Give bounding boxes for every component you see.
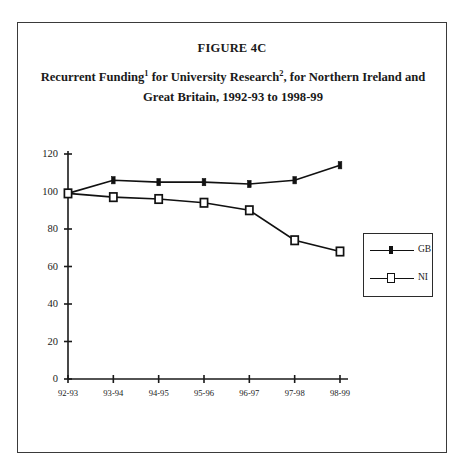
data-series (64, 162, 343, 256)
legend-label-gb: GB (418, 244, 431, 254)
x-tick-label: 92-93 (46, 388, 90, 398)
legend-label-ni: NI (418, 272, 428, 282)
page-border: FIGURE 4C Recurrent Funding1 for Univers… (17, 22, 447, 453)
y-tick-label: 60 (28, 262, 58, 272)
data-point-gb (338, 162, 342, 169)
data-point-gb (293, 177, 297, 184)
data-point-ni (246, 206, 253, 214)
x-tick-label: 95-96 (182, 388, 226, 398)
data-point-ni (155, 195, 162, 203)
data-point-ni (110, 193, 117, 201)
figure-page: FIGURE 4C Recurrent Funding1 for Univers… (0, 0, 466, 472)
chart-legend: GB NI (363, 233, 433, 297)
y-tick-label: 80 (28, 224, 58, 234)
legend-marker-ni-icon (387, 273, 395, 283)
x-tick-label: 98-99 (318, 388, 362, 398)
legend-entry-gb: GB (364, 242, 432, 260)
x-tick-label: 94-95 (137, 388, 181, 398)
x-tick-label: 96-97 (227, 388, 271, 398)
y-tick-label: 120 (28, 149, 58, 159)
data-point-ni (336, 247, 343, 255)
legend-entry-ni: NI (364, 270, 432, 288)
y-tick-label: 20 (28, 337, 58, 347)
x-tick-label: 97-98 (273, 388, 317, 398)
data-point-gb (248, 180, 252, 187)
data-point-gb (157, 179, 161, 186)
legend-marker-gb-icon (389, 246, 393, 254)
data-point-ni (64, 189, 71, 197)
y-tick-label: 100 (28, 187, 58, 197)
x-tick-label: 93-94 (91, 388, 135, 398)
data-point-ni (200, 199, 207, 207)
y-tick-label: 40 (28, 299, 58, 309)
y-tick-label: 0 (28, 374, 58, 384)
data-point-gb (112, 177, 116, 184)
data-point-gb (202, 179, 206, 186)
data-point-ni (291, 236, 298, 244)
